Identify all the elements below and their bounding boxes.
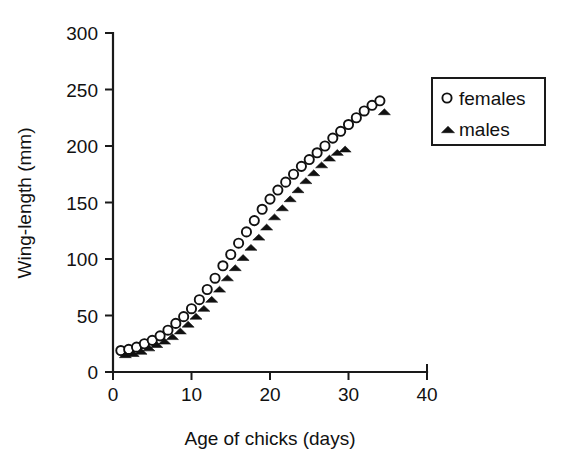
data-point-male <box>300 178 312 184</box>
data-point-female <box>344 120 353 129</box>
data-point-female <box>210 274 219 283</box>
data-point-female <box>250 216 259 225</box>
x-axis-title: Age of chicks (days) <box>184 428 355 449</box>
legend-label-females: females <box>459 88 526 109</box>
legend-label-males: males <box>459 119 510 140</box>
data-point-female <box>226 250 235 259</box>
data-point-male <box>378 109 390 115</box>
data-point-male <box>214 286 226 292</box>
data-point-female <box>352 113 361 122</box>
data-point-female <box>179 312 188 321</box>
data-point-female <box>328 133 337 142</box>
chick-wing-length-figure: 050100150200250300 010203040 femalesmale… <box>0 0 573 473</box>
data-point-male <box>245 244 257 250</box>
data-point-female <box>320 141 329 150</box>
y-tick-label-0: 0 <box>87 362 98 383</box>
data-point-female <box>265 195 274 204</box>
data-point-female <box>273 185 282 194</box>
y-tick-label-250: 250 <box>66 80 98 101</box>
x-tick-label-20: 20 <box>259 384 280 405</box>
scatter-chart: 050100150200250300 010203040 femalesmale… <box>0 0 573 473</box>
y-tick-label-300: 300 <box>66 23 98 44</box>
data-point-female <box>289 170 298 179</box>
data-point-male <box>292 187 304 193</box>
y-tick-label-100: 100 <box>66 249 98 270</box>
data-point-female <box>305 155 314 164</box>
x-tick-label-0: 0 <box>108 384 119 405</box>
data-point-female <box>218 261 227 270</box>
data-point-female <box>258 205 267 214</box>
data-point-male <box>308 170 320 176</box>
data-point-female <box>297 162 306 171</box>
data-point-male <box>276 205 288 211</box>
data-point-female <box>171 319 180 328</box>
x-tick-label-30: 30 <box>338 384 359 405</box>
data-point-female <box>336 127 345 136</box>
data-point-male <box>253 234 265 240</box>
x-tick-label-10: 10 <box>181 384 202 405</box>
data-point-female <box>242 227 251 236</box>
data-point-female <box>195 295 204 304</box>
data-point-male <box>339 146 351 152</box>
data-point-female <box>234 239 243 248</box>
data-point-female <box>313 148 322 157</box>
data-point-male <box>316 162 328 168</box>
data-point-male <box>229 265 241 271</box>
series-males-points <box>119 109 390 358</box>
data-point-female <box>203 285 212 294</box>
y-tick-label-150: 150 <box>66 193 98 214</box>
data-point-female <box>375 96 384 105</box>
y-tick-label-50: 50 <box>77 306 98 327</box>
data-point-male <box>198 305 210 311</box>
data-point-male <box>237 255 249 261</box>
data-point-male <box>269 214 281 220</box>
y-axis-ticks: 050100150200250300 <box>66 23 113 383</box>
data-point-male <box>261 224 273 230</box>
data-point-male <box>206 296 218 302</box>
series-females-points <box>116 96 384 355</box>
data-point-female <box>163 326 172 335</box>
data-point-male <box>221 275 233 281</box>
y-axis-title: Wing-length (mm) <box>14 128 35 279</box>
data-point-female <box>187 304 196 313</box>
legend: femalesmales <box>432 78 545 145</box>
y-tick-label-200: 200 <box>66 136 98 157</box>
data-point-female <box>281 178 290 187</box>
legend-marker-females <box>442 93 451 102</box>
data-point-male <box>284 196 296 202</box>
x-axis-ticks: 010203040 <box>108 364 438 405</box>
x-tick-label-40: 40 <box>416 384 437 405</box>
data-point-male <box>323 155 335 161</box>
